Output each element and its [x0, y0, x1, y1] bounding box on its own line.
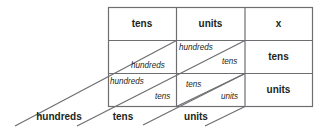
bottom-label-hundreds: hundreds [34, 112, 84, 122]
cell-11-lower: units [221, 92, 238, 101]
bottom-label-tens: tens [108, 112, 138, 122]
row-label-units: units [245, 85, 312, 95]
cell-11-upper: tens [186, 80, 201, 89]
header-tens: tens [108, 19, 176, 29]
cell-10-lower: tens [155, 92, 170, 101]
cell-01-lower: tens [222, 57, 237, 66]
row-label-tens: tens [245, 52, 312, 62]
cell-01-upper: hundreds [179, 43, 213, 52]
cell-00-lower: hundreds [131, 61, 165, 70]
header-units: units [176, 19, 245, 29]
diagonal-2 [77, 41, 245, 127]
header-multiply: x [245, 19, 312, 29]
bottom-label-units: units [178, 112, 214, 122]
cell-10-upper: hundreds [110, 77, 144, 86]
